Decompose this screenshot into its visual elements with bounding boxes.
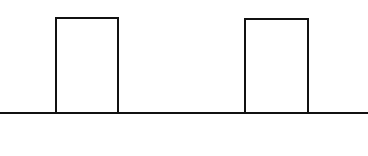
pulse-diagram xyxy=(0,0,368,156)
pulse-1 xyxy=(56,18,118,113)
pulse-2 xyxy=(245,19,308,113)
pulse-waveform-drawing xyxy=(0,0,368,156)
pulse-group xyxy=(56,18,308,113)
